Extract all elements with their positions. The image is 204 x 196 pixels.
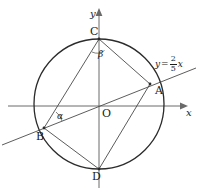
chord-CB <box>44 39 99 128</box>
chord-CA <box>99 39 150 84</box>
point-C-marker <box>98 38 101 41</box>
point-label-B: B <box>36 131 44 142</box>
point-label-D: D <box>92 171 101 182</box>
figure-canvas <box>0 0 204 196</box>
point-label-A: A <box>155 85 163 96</box>
geometry-figure: C A B D O x y β α y = 2 5 x <box>0 0 204 196</box>
fraction-numerator: 2 <box>170 55 177 63</box>
equation-fraction: 2 5 <box>170 55 177 73</box>
line-equation-label: y = 2 5 x <box>155 55 183 73</box>
equation-equals: = <box>161 60 169 69</box>
equation-lhs: y <box>155 60 160 69</box>
x-axis <box>8 103 188 110</box>
point-label-C: C <box>90 26 98 37</box>
angle-label-alpha: α <box>57 112 63 121</box>
angle-label-beta: β <box>98 50 103 59</box>
equation-variable: x <box>178 60 183 69</box>
y-axis-label: y <box>90 9 96 19</box>
fraction-denominator: 5 <box>170 65 177 73</box>
point-A-marker <box>149 83 152 86</box>
origin-label: O <box>102 108 111 119</box>
x-axis-label: x <box>186 108 192 118</box>
point-B-marker <box>43 127 46 130</box>
